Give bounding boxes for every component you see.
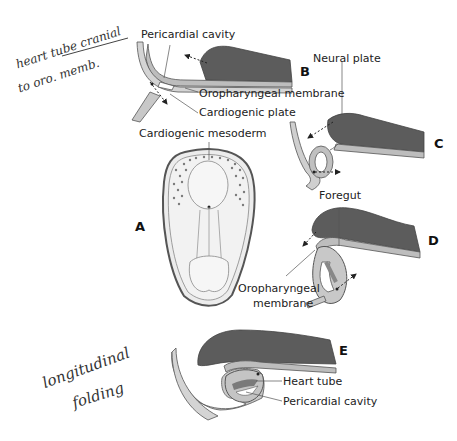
panel-letter-d: D — [428, 233, 439, 248]
panel-letter-a: A — [135, 219, 145, 234]
panel-letter-b: B — [300, 64, 310, 79]
label-neural-plate: Neural plate — [313, 52, 381, 65]
label-cardiogenic-mesoderm: Cardiogenic mesoderm — [139, 127, 267, 140]
label-oropharyngeal-membrane-d-line1: Oropharyngeal — [238, 282, 320, 295]
label-foregut: Foregut — [319, 189, 361, 202]
panel-c-drawing — [290, 62, 424, 190]
panel-letter-e: E — [339, 343, 348, 358]
label-pericardial-cavity-e: Pericardial cavity — [283, 395, 377, 408]
label-oropharyngeal-membrane-b: Oropharyngeal membrane — [199, 87, 345, 100]
label-cardiogenic-plate: Cardiogenic plate — [199, 106, 296, 119]
label-pericardial-cavity-b: Pericardial cavity — [141, 28, 235, 41]
panel-letter-c: C — [434, 136, 444, 151]
label-heart-tube: Heart tube — [283, 375, 342, 388]
label-oropharyngeal-membrane-d-line2: membrane — [253, 297, 313, 310]
